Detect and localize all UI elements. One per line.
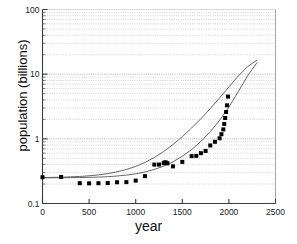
data-point	[87, 181, 91, 185]
data-point	[134, 179, 138, 183]
y-tick-label: 0.1	[28, 199, 40, 209]
data-point	[199, 151, 203, 155]
data-point	[204, 149, 208, 153]
series-line-model-curve-lower	[43, 63, 257, 178]
x-tick-label: 500	[82, 207, 96, 217]
data-point	[221, 127, 225, 131]
data-point	[226, 95, 230, 99]
y-tick-label: 10	[30, 69, 40, 79]
x-tick-label: 1500	[173, 207, 192, 217]
data-point	[171, 164, 175, 168]
data-point	[223, 116, 227, 120]
data-point	[225, 103, 229, 107]
data-point	[222, 122, 226, 126]
x-tick-label: 2500	[266, 207, 285, 217]
data-point	[157, 163, 161, 167]
x-tick-label: 0	[40, 207, 45, 217]
data-point	[194, 154, 198, 158]
x-tick-label: 1000	[126, 207, 145, 217]
y-tick-label: 1	[35, 134, 40, 144]
data-point	[213, 140, 217, 144]
chart-plot-area: 0.111010005001000150020002500	[0, 0, 297, 244]
data-point	[219, 132, 223, 136]
data-point	[96, 181, 100, 185]
axis-frame-left-bottom	[43, 10, 276, 204]
data-point	[224, 110, 228, 114]
data-point	[124, 180, 128, 184]
data-point	[106, 181, 110, 185]
population-growth-chart: 0.111010005001000150020002500 population…	[0, 0, 297, 244]
data-point	[208, 143, 212, 147]
x-tick-label: 2000	[219, 207, 238, 217]
data-point	[218, 136, 222, 140]
data-point	[78, 181, 82, 185]
data-point	[180, 160, 184, 164]
y-axis-label: population (billions)	[15, 11, 30, 181]
data-point	[59, 175, 63, 179]
x-axis-label: year	[0, 218, 297, 234]
data-point	[165, 161, 169, 165]
data-point	[143, 174, 147, 178]
data-point	[41, 175, 45, 179]
data-point	[190, 154, 194, 158]
data-point	[152, 163, 156, 167]
data-point	[115, 180, 119, 184]
